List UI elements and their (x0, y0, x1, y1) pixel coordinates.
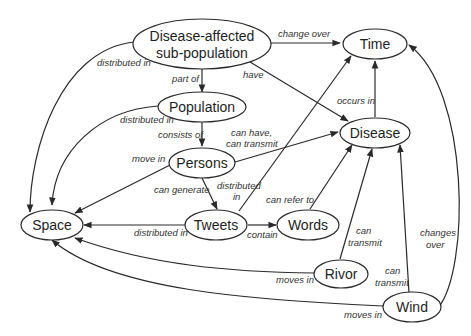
label-consists-of: consists of (158, 129, 204, 140)
label-change-over: change over (278, 28, 331, 39)
node-label: Disease-affected (150, 28, 255, 44)
label-move-in: move in (132, 153, 165, 164)
label-tweets-in: in (233, 191, 240, 202)
edge-dasp-disease (250, 62, 348, 121)
node-persons: Persons (169, 148, 235, 178)
edge-wind-time (409, 45, 459, 308)
label-changes: changes (420, 227, 456, 238)
node-space: Space (21, 210, 83, 240)
label-wind-can: can (385, 265, 400, 276)
node-population: Population (158, 92, 246, 122)
edge-wind-disease (400, 145, 409, 293)
label-rivor-moves-in: moves in (276, 274, 314, 285)
label-part-of: part of (171, 73, 200, 84)
svg-text:Words: Words (288, 217, 328, 233)
node-rivor: Rivor (314, 260, 368, 288)
label-can-transmit: can transmit (226, 138, 278, 149)
label-wind-moves-in: moves in (344, 309, 382, 320)
node-time: Time (343, 29, 407, 59)
svg-text:Persons: Persons (176, 155, 227, 171)
svg-text:Space: Space (32, 217, 72, 233)
svg-text:Disease: Disease (350, 125, 401, 141)
node-disease-affected-sub-population: Disease-affected sub-population (133, 19, 271, 69)
svg-text:Population: Population (169, 99, 235, 115)
label-rivor-can: can (356, 225, 371, 236)
node-tweets: Tweets (185, 210, 247, 240)
label-contain: contain (247, 229, 278, 240)
edge-rivor-space (75, 238, 314, 273)
label-tweets-distributed: distributed (217, 180, 262, 191)
label-wind-transmit: transmit (375, 277, 409, 288)
node-wind: Wind (383, 292, 441, 322)
svg-text:Wind: Wind (396, 299, 428, 315)
label-can-generate: can generate (154, 184, 209, 195)
label-dasp-distributed-in: distributed in (97, 57, 151, 68)
label-rivor-transmit: transmit (348, 237, 382, 248)
label-over: over (426, 239, 445, 250)
label-occurs-in: occurs in (337, 95, 375, 106)
label-have: have (243, 69, 264, 80)
node-words: Words (277, 210, 339, 240)
svg-text:Rivor: Rivor (325, 266, 358, 282)
node-label: sub-population (156, 45, 248, 61)
label-can-refer-to: can refer to (266, 194, 314, 205)
label-can-have: can have, (231, 127, 272, 138)
edge-words-disease (310, 145, 352, 209)
label-tweets-distributed-in: distributed in (134, 227, 188, 238)
node-disease: Disease (340, 118, 410, 148)
svg-text:Tweets: Tweets (194, 217, 238, 233)
concept-diagram: change over part of have distributed in … (0, 0, 471, 336)
svg-text:Time: Time (360, 36, 391, 52)
